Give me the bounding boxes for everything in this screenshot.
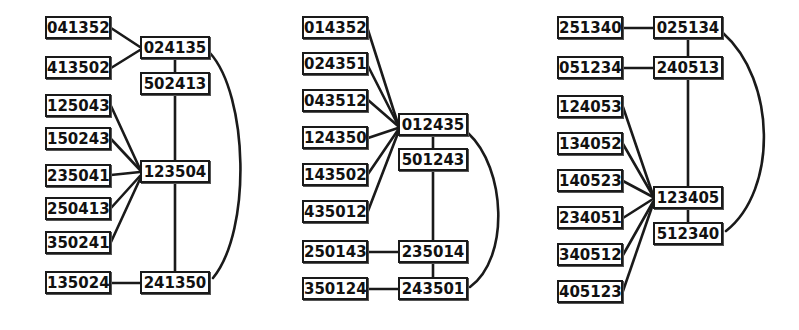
node-box[interactable]: 340512: [557, 243, 623, 266]
diagram-panel-left: 041352 413502 125043 150243 235041 25041…: [0, 0, 270, 330]
node-box[interactable]: 024351: [302, 52, 368, 75]
node-box[interactable]: 235014: [398, 240, 468, 263]
node-box[interactable]: 134052: [557, 132, 623, 155]
node-box[interactable]: 135024: [45, 271, 111, 294]
node-box[interactable]: 501243: [398, 148, 468, 171]
node-label: 405123: [559, 283, 622, 301]
node-label: 340512: [559, 246, 622, 264]
node-label: 241350: [144, 274, 207, 292]
node-box[interactable]: 243501: [398, 277, 468, 300]
node-label: 250143: [304, 243, 367, 261]
node-label: 251340: [559, 19, 622, 37]
node-box[interactable]: 041352: [45, 16, 111, 39]
node-label: 234051: [559, 209, 622, 227]
node-label: 502413: [144, 75, 207, 93]
node-box[interactable]: 240513: [653, 56, 723, 79]
node-label: 501243: [402, 151, 465, 169]
node-label: 134052: [559, 135, 622, 153]
node-label: 350241: [47, 234, 110, 252]
node-label: 051234: [559, 59, 622, 77]
node-box[interactable]: 150243: [45, 127, 111, 150]
node-label: 143502: [304, 166, 367, 184]
node-label: 240513: [657, 59, 720, 77]
node-box[interactable]: 012435: [398, 113, 468, 136]
node-label: 012435: [402, 116, 465, 134]
node-box[interactable]: 025134: [653, 16, 723, 39]
node-box[interactable]: 405123: [557, 280, 623, 303]
node-label: 025134: [657, 19, 720, 37]
node-label: 150243: [47, 130, 110, 148]
node-box[interactable]: 235041: [45, 164, 111, 187]
node-box[interactable]: 350124: [302, 277, 368, 300]
node-box[interactable]: 143502: [302, 163, 368, 186]
node-label: 041352: [47, 19, 110, 37]
node-box[interactable]: 043512: [302, 89, 368, 112]
node-label: 043512: [304, 92, 367, 110]
node-box[interactable]: 124053: [557, 95, 623, 118]
node-label: 435012: [304, 203, 367, 221]
node-label: 140523: [559, 172, 622, 190]
node-box[interactable]: 140523: [557, 169, 623, 192]
node-label: 123504: [144, 163, 207, 181]
node-box[interactable]: 435012: [302, 200, 368, 223]
node-box[interactable]: 124350: [302, 126, 368, 149]
node-label: 124053: [559, 98, 622, 116]
node-box[interactable]: 250413: [45, 197, 111, 220]
node-box[interactable]: 051234: [557, 56, 623, 79]
node-box[interactable]: 123504: [140, 160, 210, 183]
node-box[interactable]: 241350: [140, 271, 210, 294]
node-label: 250413: [47, 200, 110, 218]
node-box[interactable]: 123405: [653, 186, 723, 209]
diagram-panel-right: 251340 051234 124053 134052 140523 23405…: [530, 0, 799, 330]
node-box[interactable]: 251340: [557, 16, 623, 39]
node-label: 125043: [47, 97, 110, 115]
node-box[interactable]: 250143: [302, 240, 368, 263]
node-box[interactable]: 125043: [45, 94, 111, 117]
node-label: 235014: [402, 243, 465, 261]
figure-canvas: 041352 413502 125043 150243 235041 25041…: [0, 0, 799, 330]
node-label: 135024: [47, 274, 110, 292]
edges-panel-left: [0, 0, 270, 330]
node-label: 350124: [304, 280, 367, 298]
node-label: 024135: [144, 39, 207, 57]
node-label: 243501: [402, 280, 465, 298]
node-box[interactable]: 512340: [653, 222, 723, 245]
node-label: 014352: [304, 19, 367, 37]
node-box[interactable]: 234051: [557, 206, 623, 229]
diagram-panel-middle: 014352 024351 043512 124350 143502 43501…: [270, 0, 530, 330]
node-label: 124350: [304, 129, 367, 147]
node-label: 123405: [657, 189, 720, 207]
node-box[interactable]: 502413: [140, 72, 210, 95]
node-box[interactable]: 413502: [45, 56, 111, 79]
node-label: 512340: [657, 225, 720, 243]
node-box[interactable]: 014352: [302, 16, 368, 39]
node-label: 235041: [47, 167, 110, 185]
node-label: 413502: [47, 59, 110, 77]
node-box[interactable]: 350241: [45, 231, 111, 254]
node-label: 024351: [304, 55, 367, 73]
node-box[interactable]: 024135: [140, 36, 210, 59]
